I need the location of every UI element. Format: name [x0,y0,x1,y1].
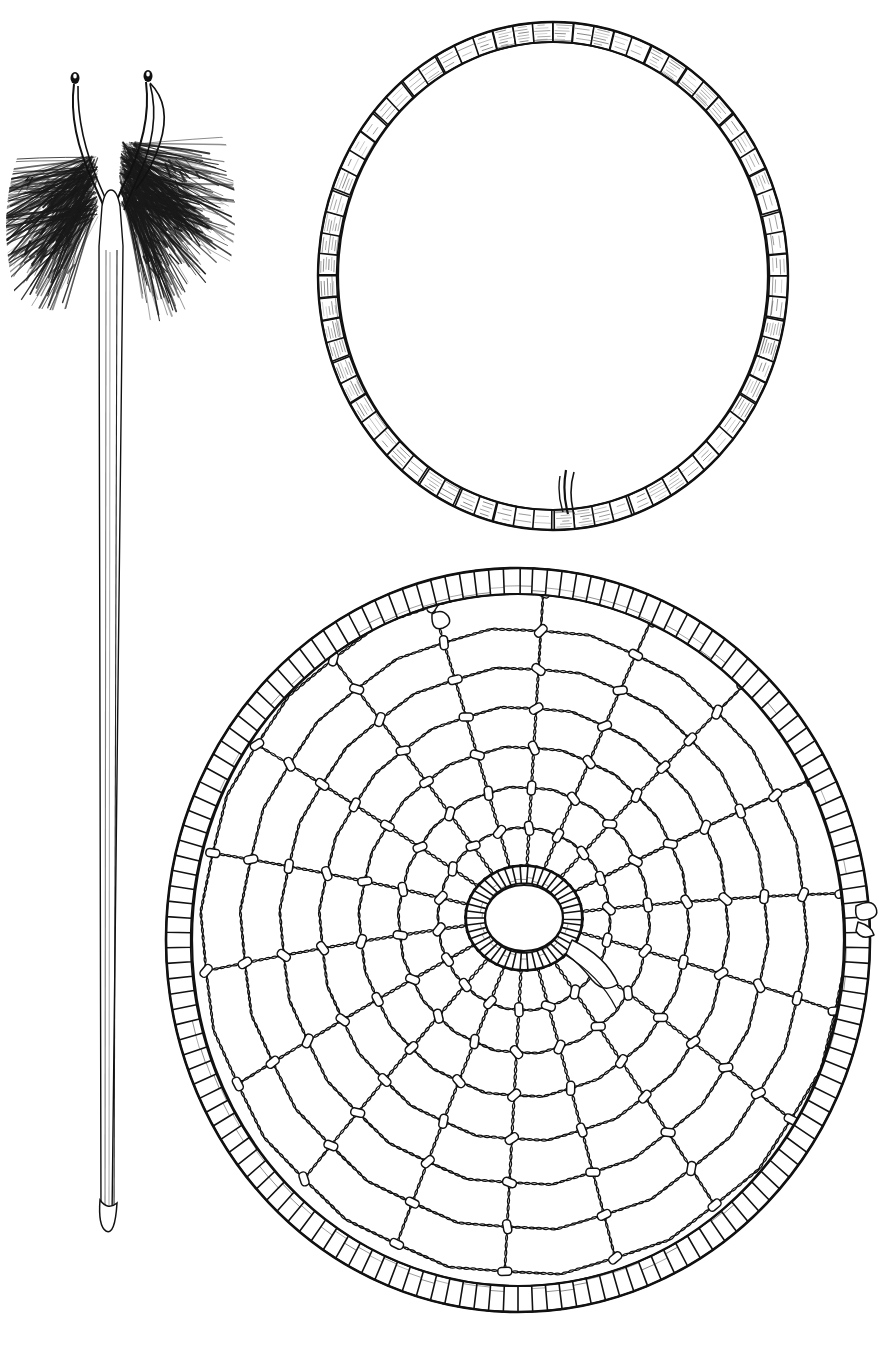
binding-loop-right [144,70,153,82]
right-feather-tuft [120,136,251,330]
rim-lug [856,902,877,937]
object-netted-hoop [166,568,877,1312]
dart-shaft [99,190,123,1232]
rim-tie-top [432,611,450,628]
left-feather-tuft [0,156,98,344]
plate-canvas [0,0,888,1350]
illustration-plate: Ethnographic line drawing plate: hoop-an… [0,0,888,1350]
object-dart [0,70,251,1232]
wrapping-seam [559,470,574,514]
object-wrapped-hoop [318,22,788,530]
binding-loop-left [71,72,80,84]
